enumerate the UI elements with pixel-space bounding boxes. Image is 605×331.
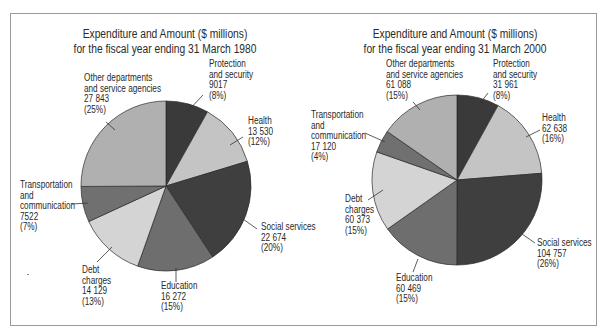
label-2000-education: Education60 469(15%): [396, 273, 432, 305]
pie-slice-social-services: [457, 173, 542, 265]
label-1980-transportation: Transportationandcommunication7522(7%): [20, 180, 75, 233]
label-1980-other-departments: Other departmentsand service agencies27 …: [84, 73, 161, 115]
label-2000-debt-charges: Debtcharges60 373(15%): [345, 194, 374, 236]
label-1980-health: Health13 530(12%): [248, 116, 273, 148]
label-2000-social-services: Social services104 757(26%): [537, 238, 592, 270]
pie-chart-1980: [81, 101, 251, 271]
label-1980-protection: Protectionand security9017(8%): [209, 59, 253, 101]
label-2000-health: Health62 638(16%): [542, 113, 567, 145]
label-1980-education: Education16 272(15%): [161, 281, 197, 313]
label-2000-transportation: Transportationandcommunication17 120(4%): [311, 110, 366, 163]
label-1980-debt-charges: Debtcharges14 129(13%): [82, 265, 111, 307]
label-1980-social-services: Social services22 674(20%): [261, 222, 316, 254]
label-2000-other-departments: Other departmentsand service agencies61 …: [386, 59, 463, 101]
label-2000-protection: Protectionand security31 961(8%): [493, 59, 537, 101]
pie-chart-2000: [372, 95, 542, 265]
stray-mark: [27, 274, 29, 275]
